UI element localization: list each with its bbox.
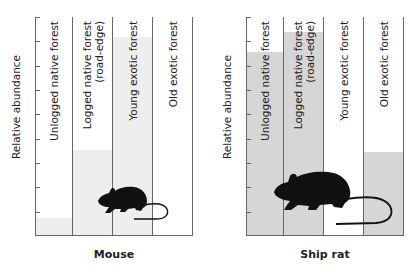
y-tick [35, 90, 40, 91]
ship-rat-chart: Relative abundance Unlogged native fores… [211, 0, 416, 274]
mouse-silhouette-icon [94, 183, 172, 225]
y-tick [246, 139, 251, 140]
y-tick [246, 90, 251, 91]
category-label-text: Old exotic forest [167, 21, 179, 107]
column-divider [192, 17, 193, 236]
x-axis [246, 235, 404, 236]
y-tick [35, 66, 40, 67]
y-axis-label: Relative abundance [221, 55, 233, 159]
y-tick [246, 187, 251, 188]
y-tick [35, 163, 40, 164]
category-label: Unlogged native forest [259, 21, 271, 141]
category-label-text: Unlogged native forest [48, 21, 60, 141]
y-tick [246, 163, 251, 164]
category-label-subtext: (road-edge) [93, 21, 105, 129]
category-label-subtext: (road-edge) [304, 21, 316, 129]
y-tick [35, 41, 40, 42]
y-tick [246, 66, 251, 67]
y-tick [35, 187, 40, 188]
y-tick [246, 41, 251, 42]
y-axis [246, 17, 247, 236]
category-label-text: Young exotic forest [127, 21, 139, 121]
x-axis [35, 235, 193, 236]
category-label: Logged native forest(road-edge) [81, 21, 105, 129]
category-label: Old exotic forest [167, 21, 179, 107]
category-label-text: Logged native forest [81, 21, 93, 129]
bar-unlogged-native [35, 218, 73, 236]
y-tick [35, 114, 40, 115]
chart-title-ship-rat: Ship rat [300, 248, 349, 261]
mouse-chart: Relative abundance Unlogged native fores… [0, 0, 208, 274]
chart-title-mouse: Mouse [94, 248, 134, 261]
category-label-text: Young exotic forest [338, 21, 350, 121]
category-label: Old exotic forest [378, 21, 390, 107]
category-label-text: Old exotic forest [378, 21, 390, 107]
y-axis-label: Relative abundance [10, 55, 22, 159]
y-tick [35, 212, 40, 213]
y-tick [35, 17, 40, 18]
category-label-text: Logged native forest [292, 21, 304, 129]
category-label-text: Unlogged native forest [259, 21, 271, 141]
y-tick [246, 17, 251, 18]
category-label: Logged native forest(road-edge) [292, 21, 316, 129]
ship-rat-silhouette-icon [272, 170, 398, 232]
y-tick [246, 212, 251, 213]
y-tick [35, 139, 40, 140]
column-divider [403, 17, 404, 236]
y-axis [35, 17, 36, 236]
category-label: Young exotic forest [127, 21, 139, 121]
y-tick [246, 114, 251, 115]
column-unlogged-native: Unlogged native forest [35, 17, 73, 236]
category-label: Young exotic forest [338, 21, 350, 121]
category-label: Unlogged native forest [48, 21, 60, 141]
